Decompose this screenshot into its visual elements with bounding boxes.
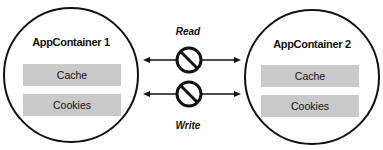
blocked-read-icon — [177, 48, 201, 72]
connection-arrows — [0, 0, 383, 150]
blocked-write-icon — [177, 82, 201, 106]
